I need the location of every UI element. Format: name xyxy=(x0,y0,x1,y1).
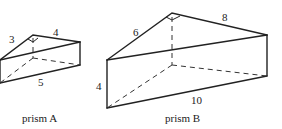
prism-b-label-10: 10 xyxy=(191,94,203,106)
prism-b-label-6: 6 xyxy=(133,26,139,38)
prism-a-hidden-right xyxy=(33,58,80,65)
diagram-canvas: 3 4 5 prism A 6 8 10 4 prism B xyxy=(0,0,282,129)
prism-a-label-5: 5 xyxy=(38,76,44,88)
prism-a: 3 4 5 prism A xyxy=(0,26,80,124)
prism-b-top-hyp xyxy=(107,35,267,60)
prism-a-caption: prism A xyxy=(22,112,57,124)
prism-b-label-4: 4 xyxy=(96,80,102,92)
prism-b-caption: prism B xyxy=(165,112,200,124)
prism-b-hidden-right xyxy=(172,65,267,76)
prism-b: 6 8 10 4 prism B xyxy=(96,11,267,124)
prism-b-top-legs xyxy=(107,13,267,60)
prism-a-label-4: 4 xyxy=(53,26,59,38)
prism-b-label-8: 8 xyxy=(222,11,228,23)
prism-a-label-3: 3 xyxy=(9,33,15,45)
